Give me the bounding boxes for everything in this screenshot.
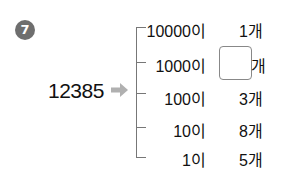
place-label: 100이 bbox=[124, 86, 206, 110]
answer-input-box[interactable] bbox=[219, 46, 252, 80]
place-label: 1이 bbox=[124, 147, 206, 171]
place-label: 1000이 bbox=[124, 53, 206, 77]
count-unit: 개 bbox=[251, 53, 266, 77]
place-label: 10000이 bbox=[124, 18, 206, 42]
count-value: 3개 bbox=[239, 86, 263, 110]
count-value: 8개 bbox=[239, 118, 263, 142]
place-label: 10이 bbox=[124, 118, 206, 142]
problem-number-badge: 7 bbox=[15, 20, 35, 40]
count-value: 5개 bbox=[239, 147, 263, 171]
count-value: 1개 bbox=[239, 18, 263, 42]
source-number: 12385 bbox=[48, 79, 104, 103]
